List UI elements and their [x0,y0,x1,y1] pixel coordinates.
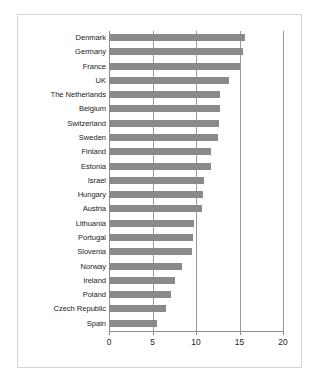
category-label: Portugal [18,231,106,245]
bar-row [109,145,283,159]
category-label: Switzerland [18,117,106,131]
bar-row [109,245,283,259]
bar-finland [109,148,211,155]
category-label: Ireland [18,274,106,288]
category-label: Czech Republic [18,302,106,316]
bar-row [109,288,283,302]
bar-row [109,117,283,131]
plot-area [109,31,283,331]
bar-the-netherlands [109,91,220,98]
bar-norway [109,263,182,270]
bar-slovenia [109,248,192,255]
bar-israel [109,177,204,184]
bar-row [109,160,283,174]
category-label: Austria [18,202,106,216]
value-tick-label: 0 [107,337,112,347]
value-axis-tick-labels: 05101520 [109,337,283,351]
category-label: Spain [18,317,106,331]
bar-belgium [109,105,220,112]
bar-row [109,302,283,316]
bar-row [109,188,283,202]
tick-mark-0 [109,331,110,335]
bar-czech-republic [109,305,166,312]
value-tick-label: 5 [150,337,155,347]
value-tick-label: 20 [278,337,287,347]
bar-ireland [109,277,175,284]
bar-row [109,317,283,331]
value-tick-label: 15 [235,337,244,347]
bar-row [109,88,283,102]
bar-uk [109,77,229,84]
bar-row [109,60,283,74]
bar-row [109,274,283,288]
category-label: Sweden [18,131,106,145]
category-label: Hungary [18,188,106,202]
category-label: Israel [18,174,106,188]
category-label: Poland [18,288,106,302]
category-label: The Netherlands [18,88,106,102]
category-label: Denmark [18,31,106,45]
chart-figure: DenmarkGermanyFranceUKThe NetherlandsBel… [17,14,302,368]
category-label: Estonia [18,160,106,174]
bar-sweden [109,134,218,141]
tick-mark-5 [153,331,154,335]
bar-row [109,202,283,216]
bar-row [109,174,283,188]
category-label: Finland [18,145,106,159]
bar-row [109,102,283,116]
bar-lithuania [109,220,194,227]
bar-estonia [109,163,211,170]
category-label: Slovenia [18,245,106,259]
bar-row [109,31,283,45]
bar-denmark [109,34,245,41]
bar-hungary [109,191,203,198]
value-tick-label: 10 [191,337,200,347]
category-label: France [18,60,106,74]
bar-france [109,63,240,70]
category-label: Lithuania [18,217,106,231]
bar-germany [109,48,243,55]
bar-austria [109,205,202,212]
bar-row [109,131,283,145]
category-axis-labels: DenmarkGermanyFranceUKThe NetherlandsBel… [18,31,106,331]
category-label: UK [18,74,106,88]
bar-row [109,217,283,231]
category-label: Norway [18,260,106,274]
bar-series [109,31,283,331]
category-label: Belgium [18,102,106,116]
bar-row [109,260,283,274]
tick-mark-20 [283,331,284,335]
bar-portugal [109,234,193,241]
bar-row [109,45,283,59]
category-label: Germany [18,45,106,59]
gridline-20 [283,31,284,331]
bar-switzerland [109,120,219,127]
tick-mark-10 [196,331,197,335]
bar-poland [109,291,171,298]
tick-mark-15 [240,331,241,335]
bar-spain [109,320,157,327]
bar-row [109,74,283,88]
bar-row [109,231,283,245]
